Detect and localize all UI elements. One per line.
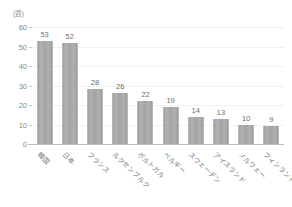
bar[interactable]: [113, 93, 128, 144]
x-label-slot: ルクセンブルク: [108, 147, 133, 207]
y-tick-label: 40: [19, 62, 27, 71]
bar[interactable]: [213, 119, 228, 144]
x-label-slot: アイスランド: [208, 147, 233, 207]
bar-value-label: 10: [242, 114, 250, 123]
x-axis-label: 韓国: [36, 149, 53, 166]
bar[interactable]: [239, 125, 254, 145]
x-label-slot: ノルウェー: [234, 147, 259, 207]
bar-item[interactable]: 13: [208, 27, 233, 144]
bar[interactable]: [188, 117, 203, 144]
bar[interactable]: [138, 101, 153, 144]
bar-value-label: 52: [66, 32, 74, 41]
y-tick-label: 20: [19, 101, 27, 110]
y-tick-label: 30: [19, 81, 27, 90]
bar[interactable]: [87, 89, 102, 144]
bar[interactable]: [264, 126, 279, 144]
bar-item[interactable]: 52: [57, 27, 82, 144]
y-tick-label: 0: [23, 140, 27, 149]
bar-chart: (週) 0102030405060 5352282622191413109 韓国…: [0, 0, 292, 207]
x-label-slot: フランス: [82, 147, 107, 207]
bar-item[interactable]: 19: [158, 27, 183, 144]
y-tick-label: 50: [19, 42, 27, 51]
bar-value-label: 22: [141, 90, 149, 99]
x-label-slot: ポルトガル: [133, 147, 158, 207]
bar-item[interactable]: 10: [234, 27, 259, 144]
bar-item[interactable]: 22: [133, 27, 158, 144]
x-label-slot: 韓国: [32, 147, 57, 207]
bar-value-label: 53: [40, 30, 48, 39]
bar-value-label: 28: [91, 78, 99, 87]
y-tick-label: 60: [19, 23, 27, 32]
bar-value-label: 26: [116, 82, 124, 91]
x-label-slot: 日本: [57, 147, 82, 207]
bar-item[interactable]: 28: [82, 27, 107, 144]
bar-value-label: 9: [269, 115, 273, 124]
x-label-slot: フィンランド: [259, 147, 284, 207]
x-label-slot: スウェーデン: [183, 147, 208, 207]
bar-series: 5352282622191413109: [32, 27, 284, 144]
y-axis-unit-label: (週): [13, 8, 24, 18]
bar[interactable]: [62, 43, 77, 144]
bar-item[interactable]: 9: [259, 27, 284, 144]
bar-value-label: 19: [166, 96, 174, 105]
bar-item[interactable]: 26: [108, 27, 133, 144]
x-axis-line: [28, 144, 284, 145]
bar-value-label: 14: [192, 106, 200, 115]
bar-item[interactable]: 53: [32, 27, 57, 144]
y-tick-label: 10: [19, 120, 27, 129]
bar[interactable]: [163, 107, 178, 144]
plot-area: 0102030405060 5352282622191413109: [32, 27, 284, 144]
x-axis-category-labels: 韓国日本フランスルクセンブルクポルトガルベルギースウェーデンアイスランドノルウェ…: [32, 147, 284, 207]
x-axis-label: フィンランド: [262, 149, 292, 185]
bar-value-label: 13: [217, 108, 225, 117]
bar[interactable]: [37, 41, 52, 144]
x-axis-label: 日本: [61, 149, 78, 166]
bar-item[interactable]: 14: [183, 27, 208, 144]
x-label-slot: ベルギー: [158, 147, 183, 207]
